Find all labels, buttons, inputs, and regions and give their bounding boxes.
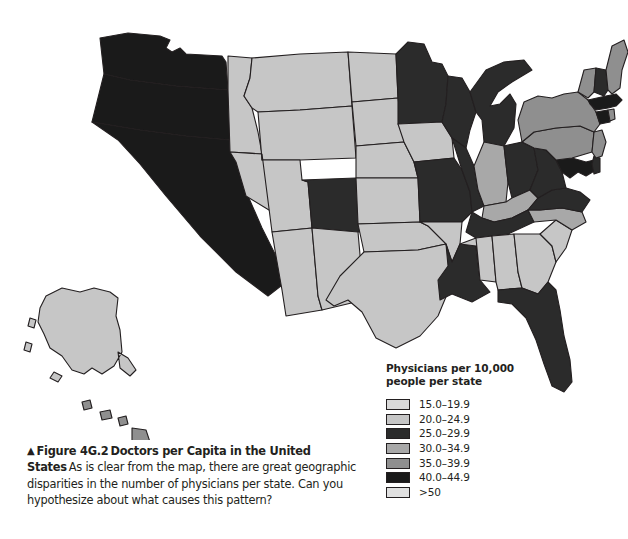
state-MT[interactable] xyxy=(244,52,352,112)
legend-label: >50 xyxy=(419,487,441,498)
caption-figure-number: Figure 4G.2 xyxy=(36,444,108,458)
legend-label: 35.0–39.9 xyxy=(419,458,470,469)
state-ME[interactable] xyxy=(606,40,628,94)
state-VT[interactable] xyxy=(578,68,596,98)
caption-body-text: As is clear from the map, there are grea… xyxy=(27,460,356,507)
legend-swatch xyxy=(386,458,410,469)
figure-caption: ▲Figure 4G.2Doctors per Capita in the Un… xyxy=(27,443,363,509)
legend-swatch xyxy=(386,487,410,498)
figure-container: Physicians per 10,000 people per state 1… xyxy=(0,0,628,539)
triangle-marker-icon: ▲ xyxy=(27,445,34,456)
legend-swatch xyxy=(386,428,410,439)
state-MA[interactable] xyxy=(588,94,622,110)
legend-item: 40.0–44.9 xyxy=(386,470,536,485)
legend-swatch xyxy=(386,414,410,425)
legend-item: 35.0–39.9 xyxy=(386,456,536,471)
legend-item: 25.0–29.9 xyxy=(386,427,536,442)
map-legend: Physicians per 10,000 people per state 1… xyxy=(386,362,536,500)
legend-swatch xyxy=(386,472,410,483)
legend-label: 20.0–24.9 xyxy=(419,414,470,425)
legend-label: 30.0–34.9 xyxy=(419,443,470,454)
legend-swatch xyxy=(386,443,410,454)
legend-item: 30.0–34.9 xyxy=(386,441,536,456)
legend-item: 20.0–24.9 xyxy=(386,412,536,427)
state-WY[interactable] xyxy=(258,106,356,160)
state-NJ[interactable] xyxy=(592,130,606,158)
legend-label: 15.0–19.9 xyxy=(419,399,470,410)
legend-label: 40.0–44.9 xyxy=(419,472,470,483)
state-DE[interactable] xyxy=(592,156,600,174)
legend-label: 25.0–29.9 xyxy=(419,428,470,439)
state-AK[interactable] xyxy=(24,288,136,382)
state-HI[interactable] xyxy=(82,400,150,440)
state-UT[interactable] xyxy=(262,154,312,232)
state-MN[interactable] xyxy=(396,42,448,124)
state-ND[interactable] xyxy=(348,52,398,102)
legend-item: >50 xyxy=(386,485,536,500)
legend-title: Physicians per 10,000 people per state xyxy=(386,362,536,388)
legend-item: 15.0–19.9 xyxy=(386,397,536,412)
legend-swatch xyxy=(386,399,410,410)
state-SD[interactable] xyxy=(352,98,404,146)
state-KS[interactable] xyxy=(356,178,420,224)
